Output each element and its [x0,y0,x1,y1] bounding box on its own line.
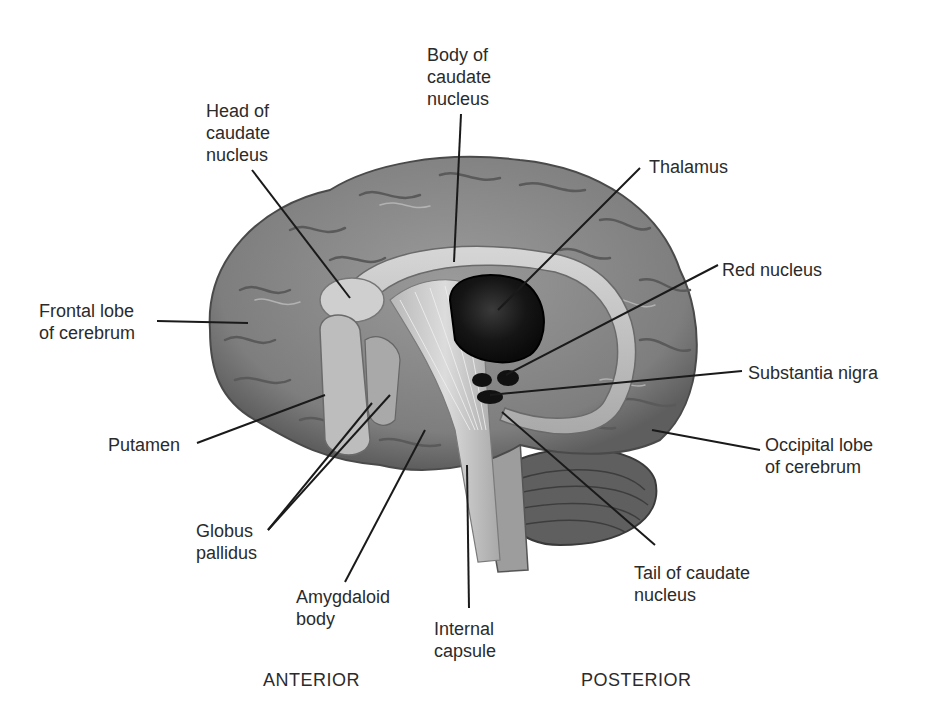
globus-pallidus-shape [365,337,400,425]
label-red-nucleus: Red nucleus [722,259,822,281]
red-nucleus-shape-left [472,373,492,387]
thalamus-shape [450,275,544,362]
label-putamen: Putamen [108,434,180,456]
label-head-of-caudate-nucleus: Head of caudate nucleus [206,100,270,166]
label-thalamus: Thalamus [649,156,728,178]
orientation-posterior: POSTERIOR [581,670,692,691]
orientation-anterior: ANTERIOR [263,670,360,691]
label-body-of-caudate-nucleus: Body of caudate nucleus [427,44,491,110]
brain-diagram: Body of caudate nucleus Head of caudate … [0,0,946,715]
red-nucleus-shape-right [497,370,519,386]
caudate-head-shape [320,278,384,322]
label-occipital-lobe: Occipital lobe of cerebrum [765,434,873,478]
label-substantia-nigra: Substantia nigra [748,362,878,384]
label-frontal-lobe: Frontal lobe of cerebrum [39,300,135,344]
substantia-nigra-shape [477,390,503,404]
label-amygdaloid-body: Amygdaloid body [296,586,390,630]
label-tail-of-caudate-nucleus: Tail of caudate nucleus [634,562,750,606]
label-globus-pallidus: Globus pallidus [196,520,257,564]
label-internal-capsule: Internal capsule [434,618,496,662]
